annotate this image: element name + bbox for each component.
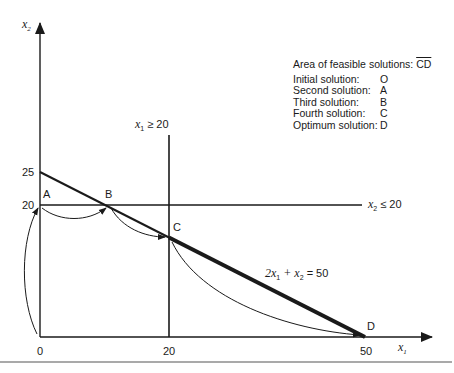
x-tick-50: 50 xyxy=(360,345,372,357)
x-tick-0: 0 xyxy=(37,345,43,357)
constraint-2x1-x2-50-label: 2x1 + x2 = 50 xyxy=(265,266,328,281)
segment-cd: CD xyxy=(416,58,431,70)
point-a-label: A xyxy=(43,188,51,200)
constraint-x2-le-20-label: x2≤ 20 xyxy=(367,197,402,212)
y-tick-20: 20 xyxy=(22,199,34,211)
legend-row-second: Second solution:A xyxy=(293,85,431,97)
lp-diagram: x2 x1 0 20 50 20 25 A B C D x1≥ 20 x2≤ 2… xyxy=(0,0,454,373)
y-axis-label: x2 xyxy=(21,17,31,33)
arrow-o-to-a xyxy=(24,208,38,334)
point-b-label: B xyxy=(105,188,112,200)
legend-row-fourth: Fourth solution:C xyxy=(293,108,431,120)
point-d-label: D xyxy=(367,320,375,332)
point-c-label: C xyxy=(173,221,181,233)
legend-title: Area of feasible solutions: CD xyxy=(293,59,431,71)
feasible-segment-cd xyxy=(169,238,365,338)
legend: Area of feasible solutions: CD Initial s… xyxy=(293,59,431,131)
x-tick-20: 20 xyxy=(163,345,175,357)
x-axis-label: x1 xyxy=(397,340,407,356)
arrow-a-to-b xyxy=(42,208,106,219)
constraint-x1-ge-20-label: x1≥ 20 xyxy=(134,117,169,132)
y-tick-25: 25 xyxy=(22,166,34,178)
legend-row-optimum: Optimum solution:D xyxy=(293,120,431,132)
